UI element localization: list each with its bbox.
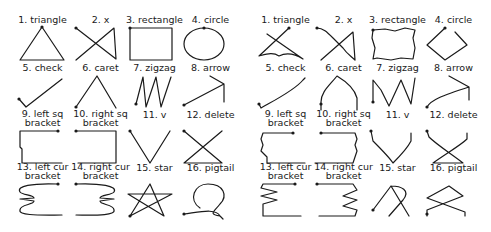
- pigtail-glyph-icon: [423, 182, 484, 218]
- gesture-label-line2: bracket: [12, 171, 73, 181]
- gesture-label: 11. v: [367, 110, 428, 120]
- gesture-label: 7. zigzag: [367, 63, 428, 73]
- gesture-label: 2. x: [70, 15, 131, 25]
- gesture-panel-left: 1. triangle 2. x 3. rectangle 4. circle …: [0, 0, 245, 232]
- right-sq-bracket-glyph-icon: [313, 129, 374, 165]
- gesture-label-line2: bracket: [313, 118, 374, 128]
- check-glyph-icon: [12, 74, 73, 110]
- right-sq-bracket-glyph-icon: [70, 129, 131, 165]
- gesture-label: 1. triangle: [255, 15, 316, 25]
- triangle-glyph-icon: [12, 26, 73, 62]
- gesture-label-line2: bracket: [70, 118, 131, 128]
- delete-glyph-icon: [180, 129, 241, 165]
- right-cur-bracket-glyph-icon: [70, 182, 131, 218]
- gesture-label: 16. pigtail: [423, 163, 484, 173]
- gesture-label: 4. circle: [423, 15, 484, 25]
- zigzag-glyph-icon: [367, 74, 428, 110]
- left-cur-bracket-glyph-icon: [12, 182, 73, 218]
- triangle-glyph-icon: [255, 26, 316, 62]
- gesture-label: 1. triangle: [12, 15, 73, 25]
- gesture-label: 12. delete: [423, 110, 484, 120]
- x-glyph-icon: [70, 26, 131, 62]
- v-glyph-icon: [124, 129, 185, 165]
- circle-glyph-icon: [180, 26, 241, 62]
- gesture-label: 5. check: [12, 63, 73, 73]
- gesture-label-line2: bracket: [313, 171, 374, 181]
- gesture-label: 6. caret: [70, 63, 131, 73]
- circle-glyph-icon: [423, 26, 484, 62]
- gesture-label: 3. rectangle: [367, 15, 428, 25]
- rectangle-glyph-icon: [367, 26, 428, 62]
- gesture-label-line2: bracket: [255, 171, 316, 181]
- pigtail-glyph-icon: [180, 182, 241, 218]
- rectangle-glyph-icon: [124, 26, 185, 62]
- gesture-label: 7. zigzag: [124, 63, 185, 73]
- gesture-label-line2: bracket: [12, 118, 73, 128]
- check-glyph-icon: [255, 74, 316, 110]
- arrow-glyph-icon: [180, 74, 241, 110]
- x-glyph-icon: [313, 26, 374, 62]
- gesture-label-line2: bracket: [70, 171, 131, 181]
- gesture-label: 4. circle: [180, 15, 241, 25]
- delete-glyph-icon: [423, 129, 484, 165]
- gesture-label: 6. caret: [313, 63, 374, 73]
- gesture-label: 15. star: [367, 163, 428, 173]
- arrow-glyph-icon: [423, 74, 484, 110]
- right-cur-bracket-glyph-icon: [313, 182, 374, 218]
- gesture-label: 8. arrow: [180, 63, 241, 73]
- gesture-label: 15. star: [124, 163, 185, 173]
- gesture-label: 8. arrow: [423, 63, 484, 73]
- zigzag-glyph-icon: [124, 74, 185, 110]
- gesture-label: 3. rectangle: [124, 15, 185, 25]
- left-sq-bracket-glyph-icon: [12, 129, 73, 165]
- star-glyph-icon: [367, 182, 428, 218]
- caret-glyph-icon: [313, 74, 374, 110]
- gesture-label: 12. delete: [180, 110, 241, 120]
- left-cur-bracket-glyph-icon: [255, 182, 316, 218]
- gesture-label: 5. check: [255, 63, 316, 73]
- gesture-panel-right: 1. triangle 2. x 3. rectangle 4. circle …: [245, 0, 490, 232]
- gesture-label: 11. v: [124, 110, 185, 120]
- caret-glyph-icon: [70, 74, 131, 110]
- gesture-label: 16. pigtail: [180, 163, 241, 173]
- left-sq-bracket-glyph-icon: [255, 129, 316, 165]
- v-glyph-icon: [367, 129, 428, 165]
- star-glyph-icon: [124, 182, 185, 218]
- gesture-label-line2: bracket: [255, 118, 316, 128]
- gesture-label: 2. x: [313, 15, 374, 25]
